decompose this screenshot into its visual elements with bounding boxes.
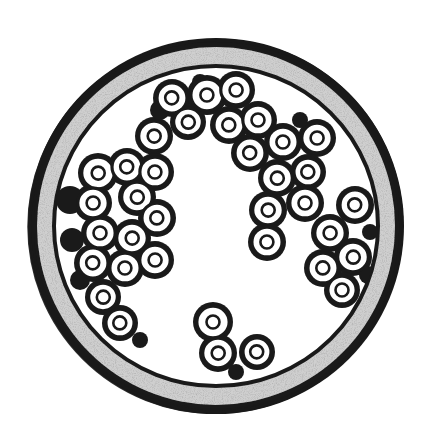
cell-nucleus bbox=[250, 345, 263, 358]
cell-nucleus bbox=[92, 167, 105, 180]
cell-nucleus bbox=[347, 251, 360, 264]
cell-nucleus bbox=[131, 191, 144, 204]
cell-left bbox=[112, 152, 142, 182]
cell-nucleus bbox=[222, 118, 235, 131]
cell-nucleus bbox=[165, 91, 178, 104]
cell-nucleus bbox=[150, 211, 163, 224]
cell-left bbox=[82, 157, 115, 189]
cell-left bbox=[78, 248, 108, 278]
cell-nucleus bbox=[252, 114, 265, 127]
cell-nucleus bbox=[149, 254, 162, 267]
cell-right bbox=[290, 188, 320, 218]
cell-top bbox=[139, 121, 170, 151]
cell-right bbox=[294, 158, 322, 186]
vessel-cross-section-drawing bbox=[0, 0, 432, 444]
matrix-blob bbox=[292, 112, 308, 128]
cell-left bbox=[140, 245, 170, 275]
cell-right bbox=[262, 163, 293, 193]
cell-top bbox=[221, 75, 251, 105]
cell-nucleus bbox=[311, 132, 324, 145]
cell-right bbox=[302, 123, 332, 153]
cell-nucleus bbox=[120, 160, 133, 173]
cell-right bbox=[235, 138, 265, 168]
cell-right bbox=[252, 227, 282, 257]
cell-nucleus bbox=[260, 235, 273, 248]
cell-right bbox=[253, 195, 284, 225]
cell-nucleus bbox=[230, 84, 243, 97]
cell-nucleus bbox=[86, 256, 99, 269]
cell-right bbox=[340, 190, 370, 220]
cell-left bbox=[117, 223, 148, 253]
cell-nucleus bbox=[212, 347, 225, 360]
cell-nucleus bbox=[299, 197, 312, 210]
cell-nucleus bbox=[87, 197, 100, 210]
cell-nucleus bbox=[243, 146, 256, 159]
cell-nucleus bbox=[271, 172, 284, 185]
cell-bottom bbox=[243, 338, 271, 366]
cell-nucleus bbox=[316, 261, 329, 274]
cell-nucleus bbox=[336, 284, 349, 297]
cell-nucleus bbox=[324, 227, 337, 240]
cell-left bbox=[89, 283, 118, 311]
cell-right bbox=[315, 218, 345, 248]
cell-left bbox=[142, 203, 172, 233]
cell-top bbox=[214, 110, 244, 140]
cell-bottom bbox=[197, 306, 229, 338]
cell-nucleus bbox=[148, 165, 161, 178]
matrix-blob bbox=[60, 228, 84, 252]
cell-top bbox=[191, 79, 223, 111]
cell-left bbox=[110, 253, 140, 283]
cell-nucleus bbox=[148, 130, 161, 143]
matrix-blob bbox=[362, 224, 378, 240]
cell-nucleus bbox=[200, 88, 213, 101]
cell-nucleus bbox=[182, 116, 195, 129]
cell-nucleus bbox=[262, 204, 275, 217]
cell-left bbox=[85, 218, 115, 248]
cell-left bbox=[78, 188, 108, 218]
cell-nucleus bbox=[94, 227, 107, 240]
cell-nucleus bbox=[113, 316, 126, 329]
cell-nucleus bbox=[126, 232, 139, 245]
cell-top bbox=[174, 108, 203, 136]
cell-right bbox=[328, 276, 356, 304]
matrix-blob bbox=[228, 364, 244, 380]
matrix-blob bbox=[132, 332, 148, 348]
cell-nucleus bbox=[207, 316, 220, 329]
cell-nucleus bbox=[348, 198, 361, 211]
cell-bottom bbox=[203, 338, 234, 368]
cell-left bbox=[106, 309, 134, 337]
illustration-canvas: Hand-drawn ink illustration of a circula… bbox=[0, 0, 432, 444]
cell-nucleus bbox=[276, 135, 289, 148]
cell-nucleus bbox=[97, 291, 110, 304]
cell-right bbox=[268, 127, 298, 157]
cell-nucleus bbox=[118, 261, 131, 274]
cell-nucleus bbox=[301, 165, 314, 178]
cell-top bbox=[243, 105, 273, 135]
cell-right bbox=[338, 242, 369, 272]
